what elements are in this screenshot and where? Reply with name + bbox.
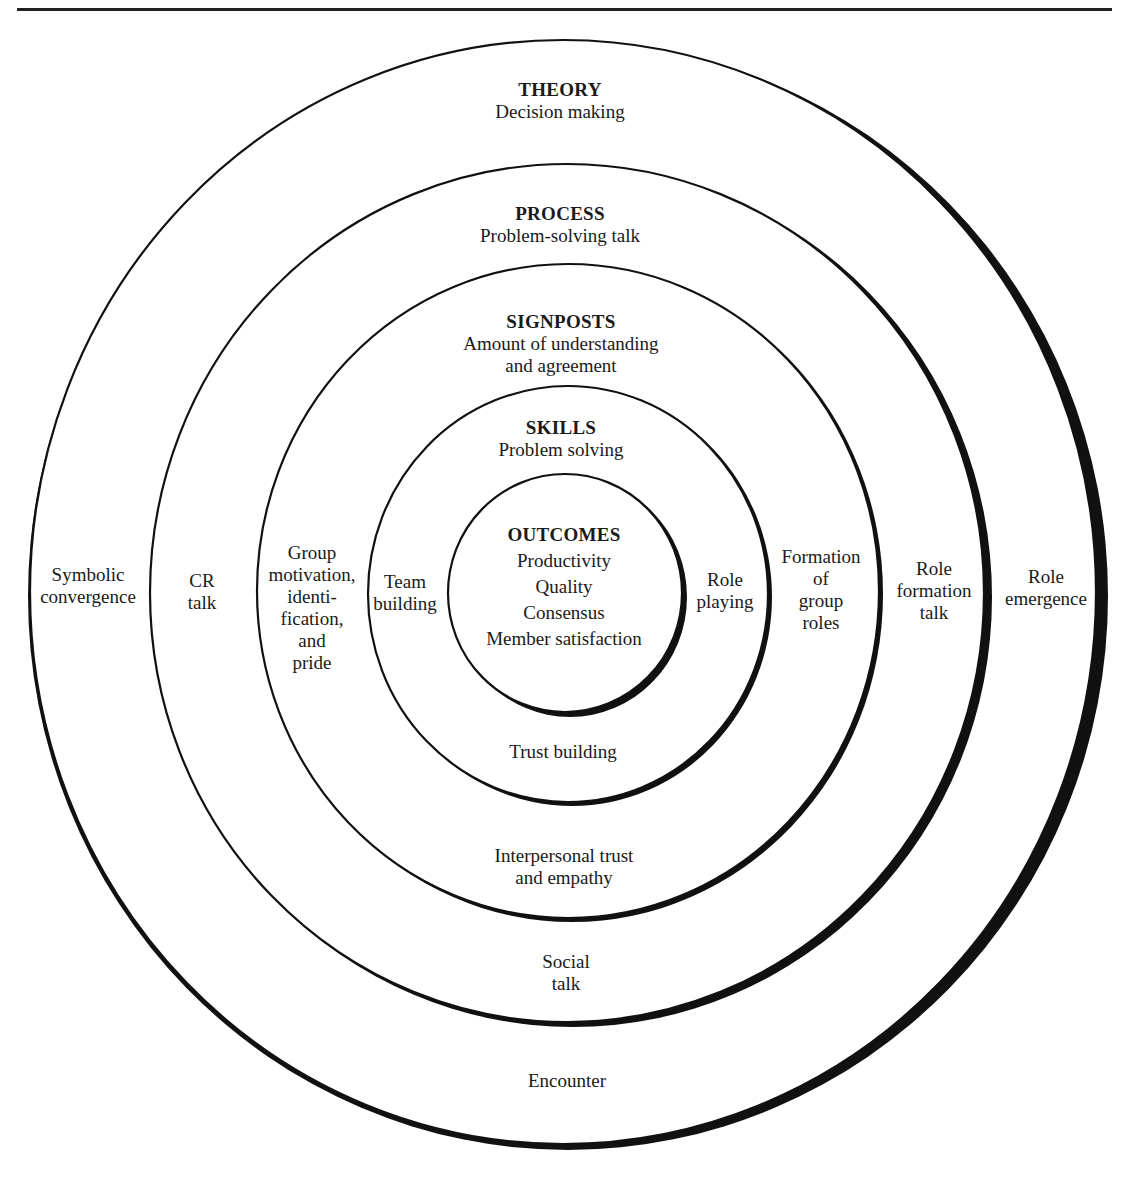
right-4-line-2: playing [697,591,754,613]
signposts-label: SIGNPOSTS Amount of understanding and ag… [463,311,658,377]
right-3-line-4: roles [781,612,860,634]
outcome-productivity: Productivity [486,548,642,574]
bottom-3-line-1: Interpersonal trust [495,845,634,867]
theory-subtitle: Decision making [495,101,624,123]
right-3-line-2: of [781,568,860,590]
bottom-2-line-1: Social [542,951,590,973]
left-2-line-2: talk [188,592,217,614]
signposts-line-2: and agreement [463,355,658,377]
right-4-line-1: Role [697,569,754,591]
right-3-line-1: Formation [781,546,860,568]
bottom-social-talk: Social talk [542,951,590,995]
left-4-line-2: building [373,593,436,615]
outcome-member-satisfaction: Member satisfaction [486,626,642,652]
bottom-3-line-2: and empathy [495,867,634,889]
left-2-line-1: CR [188,570,217,592]
bottom-trust-building: Trust building [509,741,617,763]
right-2-line-1: Role [897,558,972,580]
outcomes-heading: OUTCOMES [486,522,642,548]
right-2-line-2: formation [897,580,972,602]
bottom-4-line-1: Trust building [509,741,617,763]
bottom-encounter: Encounter [528,1070,606,1092]
theory-label: THEORY Decision making [495,79,624,123]
left-4-line-1: Team [373,571,436,593]
left-3-line-1: Group [268,542,355,564]
bottom-1-line-1: Encounter [528,1070,606,1092]
bottom-interpersonal-trust: Interpersonal trust and empathy [495,845,634,889]
theory-heading: THEORY [495,79,624,101]
right-1-line-1: Role [1005,566,1087,588]
process-subtitle: Problem-solving talk [480,225,640,247]
right-role-playing: Role playing [697,569,754,613]
signposts-line-1: Amount of understanding [463,333,658,355]
left-3-line-6: pride [268,652,355,674]
outcomes-label: OUTCOMES Productivity Quality Consensus … [486,522,642,652]
left-1-line-2: convergence [40,586,136,608]
left-1-line-1: Symbolic [40,564,136,586]
right-role-emergence: Role emergence [1005,566,1087,610]
right-3-line-3: group [781,590,860,612]
right-2-line-3: talk [897,602,972,624]
left-3-line-5: and [268,630,355,652]
left-3-line-3: identi- [268,586,355,608]
outcome-quality: Quality [486,574,642,600]
left-team-building: Team building [373,571,436,615]
left-cr-talk: CR talk [188,570,217,614]
bottom-2-line-2: talk [542,973,590,995]
right-1-line-2: emergence [1005,588,1087,610]
left-3-line-2: motivation, [268,564,355,586]
process-heading: PROCESS [480,203,640,225]
right-role-formation-talk: Role formation talk [897,558,972,624]
left-3-line-4: fication, [268,608,355,630]
skills-label: SKILLS Problem solving [498,417,623,461]
right-formation-of-group-roles: Formation of group roles [781,546,860,634]
outcome-consensus: Consensus [486,600,642,626]
process-label: PROCESS Problem-solving talk [480,203,640,247]
skills-subtitle: Problem solving [498,439,623,461]
signposts-heading: SIGNPOSTS [463,311,658,333]
left-symbolic-convergence: Symbolic convergence [40,564,136,608]
skills-heading: SKILLS [498,417,623,439]
left-group-motivation: Group motivation, identi- fication, and … [268,542,355,674]
